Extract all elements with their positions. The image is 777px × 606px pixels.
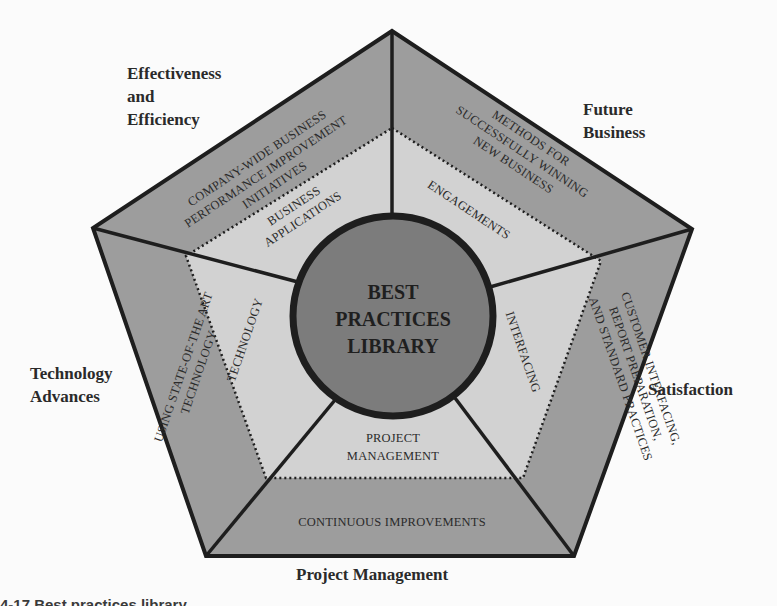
center-line-3: LIBRARY <box>347 335 439 357</box>
center-line-2: PRACTICES <box>335 308 451 330</box>
inner-bottom-line-1: PROJECT <box>366 431 420 445</box>
inner-bottom-line-2: MANAGEMENT <box>347 449 439 463</box>
label-effectiveness-efficiency: Effectiveness and Efficiency <box>127 62 221 131</box>
label-satisfaction: Satisfaction <box>648 378 733 401</box>
label-project-management: Project Management <box>296 563 448 586</box>
center-line-1: BEST <box>367 281 419 303</box>
outer-bottom-text: CONTINUOUS IMPROVEMENTS <box>298 515 486 529</box>
label-future-business: Future Business <box>583 98 645 144</box>
best-practices-diagram: BEST PRACTICES LIBRARY COMPANY-WIDE BUSI… <box>0 0 777 606</box>
pentagon-diagram-svg: BEST PRACTICES LIBRARY COMPANY-WIDE BUSI… <box>0 0 777 606</box>
figure-caption: 4-17 Best practices library. <box>0 590 190 606</box>
label-technology-advances: Technology Advances <box>30 362 113 408</box>
